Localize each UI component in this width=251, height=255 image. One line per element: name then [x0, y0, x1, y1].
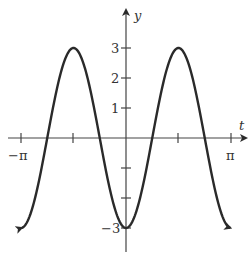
- tick-label-y1: 1: [111, 101, 119, 116]
- tick-label-pi: π: [226, 148, 235, 163]
- x-axis-label: t: [239, 118, 245, 133]
- tick-label-ym3: −3: [101, 221, 120, 236]
- tick-label-y3: 3: [111, 41, 119, 56]
- tick-label-neg-pi: −π: [8, 148, 28, 163]
- sinusoid-plot: y t −π π 3 2 1 −3: [0, 0, 251, 255]
- y-axis-label: y: [133, 8, 142, 23]
- chart-container: y t −π π 3 2 1 −3: [0, 0, 251, 255]
- tick-label-y2: 2: [111, 71, 119, 86]
